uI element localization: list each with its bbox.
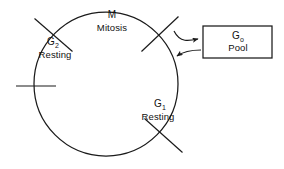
phase-label-mitosis-symbol: M (108, 10, 116, 21)
g2-symbol-text: G (47, 36, 55, 47)
cell-cycle-circle (34, 12, 178, 156)
mitosis-symbol-text: M (108, 9, 116, 20)
g1-subscript-text: 1 (162, 104, 166, 111)
tick-mitosis-end (142, 17, 179, 52)
tick-g1-end (145, 119, 183, 153)
phase-label-mitosis-name: Mitosis (97, 23, 127, 33)
phase-label-g1-name: Resting (142, 112, 175, 122)
g2-name-text: Resting (39, 49, 72, 60)
g1-name-text: Resting (142, 111, 175, 122)
arrow-pool-to-cycle (177, 50, 201, 56)
arrow-cycle-to-pool (174, 31, 198, 41)
g0-pool-name-text: Pool (228, 42, 247, 53)
mitosis-name-text: Mitosis (97, 22, 127, 33)
diagram-canvas (0, 0, 284, 169)
g0-symbol-text: G (232, 30, 240, 41)
phase-label-g1-symbol: G1 (154, 99, 166, 112)
g2-subscript-text: 2 (55, 42, 59, 49)
phase-label-g2-symbol: G2 (47, 37, 59, 50)
phase-label-g2-name: Resting (39, 50, 72, 60)
cell-cycle-diagram: M Mitosis G2 Resting G1 Resting Go Pool (0, 0, 284, 169)
g1-symbol-text: G (154, 98, 162, 109)
g0-pool-name: Pool (228, 43, 247, 53)
